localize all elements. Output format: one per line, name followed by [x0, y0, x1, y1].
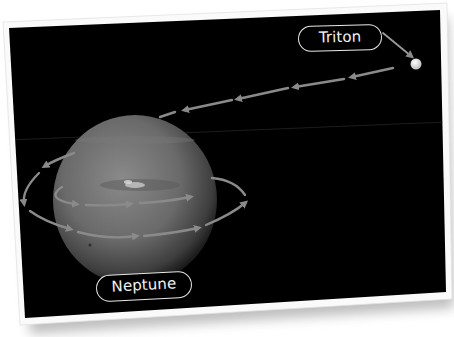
photo-print: Triton Neptune — [0, 0, 454, 337]
photo-frame — [0, 0, 454, 337]
moon-dot-icon — [411, 59, 422, 70]
planet-sphere-icon — [53, 115, 217, 285]
